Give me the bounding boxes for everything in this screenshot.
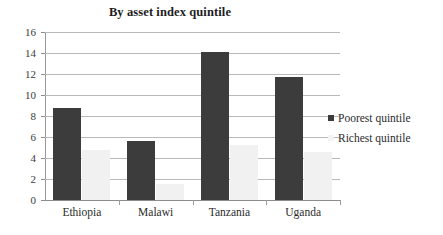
y-axis-label: 10 [10,90,36,101]
y-tick-mark-8 [41,116,45,117]
y-tick-mark-14 [41,53,45,54]
x-axis-tick [266,200,267,205]
plot-area [45,32,340,200]
y-tick-mark-16 [41,32,45,33]
bar-malawi-richest [156,184,184,200]
bar-tanzania-richest [230,145,258,200]
y-axis-label: 0 [10,195,36,206]
y-tick-mark-4 [41,158,45,159]
gridline-12 [45,74,340,75]
chart-container: By asset index quintile 0246810121416Eth… [0,0,443,235]
y-axis-label: 2 [10,174,36,185]
legend-swatch-richest-icon [328,135,334,141]
y-axis-label: 12 [10,69,36,80]
chart-title: By asset index quintile [0,5,340,20]
y-tick-mark-10 [41,95,45,96]
y-axis-label: 16 [10,27,36,38]
y-tick-mark-2 [41,179,45,180]
x-axis-label-ethiopia: Ethiopia [45,206,119,219]
y-tick-mark-6 [41,137,45,138]
bar-uganda-poorest [275,77,303,200]
bar-uganda-richest [304,152,332,200]
y-axis-label: 8 [10,111,36,122]
x-axis-tick [119,200,120,205]
x-axis-tick [193,200,194,205]
bar-ethiopia-poorest [53,108,81,200]
y-axis-label: 6 [10,132,36,143]
x-axis-label-uganda: Uganda [266,206,340,219]
legend-swatch-poorest-icon [328,115,334,121]
x-axis-tick-end [340,200,341,205]
chart-legend: Poorest quintile Richest quintile [328,108,443,148]
legend-entry-poorest[interactable]: Poorest quintile [328,108,443,128]
bar-malawi-poorest [127,141,155,200]
legend-entry-richest[interactable]: Richest quintile [328,128,443,148]
bar-ethiopia-richest [82,150,110,200]
y-tick-mark-0 [41,200,45,201]
legend-label-poorest: Poorest quintile [338,112,411,124]
y-axis-label: 4 [10,153,36,164]
y-tick-mark-12 [41,74,45,75]
x-axis-label-tanzania: Tanzania [193,206,267,219]
bar-tanzania-poorest [201,52,229,200]
gridline-16 [45,32,340,33]
legend-label-richest: Richest quintile [338,132,411,144]
gridline-14 [45,53,340,54]
x-axis-label-malawi: Malawi [119,206,193,219]
y-axis-label: 14 [10,48,36,59]
